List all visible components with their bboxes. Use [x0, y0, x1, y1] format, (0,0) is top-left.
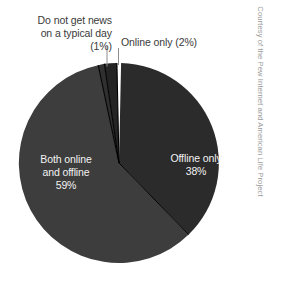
slice-label-offline-only: Offline only 38%: [150, 152, 242, 178]
pie-chart: Do not get news on a typical day (1%) On…: [0, 0, 291, 286]
chart-credit: Courtesy of the Pew Internet and America…: [256, 2, 265, 202]
slice-callout-do-not-get-news: Do not get news on a typical day (1%): [12, 14, 112, 54]
slice-callout-online-only: Online only (2%): [121, 36, 231, 49]
slice-label-both-online-and-offline: Both online and offline 59%: [18, 153, 114, 193]
